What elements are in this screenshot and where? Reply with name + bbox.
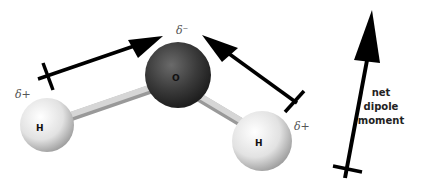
oxygen-atom: O xyxy=(145,42,211,108)
bond-left xyxy=(70,84,160,117)
net-dipole-label-line2: dipole xyxy=(364,101,399,112)
water-dipole-diagram: O H H δ⁻ δ+ δ+ net dipole moment xyxy=(0,0,425,193)
net-dipole-label-line1: net xyxy=(372,87,391,98)
hydrogen-right-atom: H xyxy=(232,111,292,171)
hydrogen-left-partial-charge: δ+ xyxy=(15,88,31,101)
hydrogen-left-atom: H xyxy=(20,98,74,152)
net-dipole-label: net dipole moment xyxy=(358,87,405,126)
net-dipole-label-line3: moment xyxy=(358,115,405,126)
hydrogen-right-label: H xyxy=(255,138,263,148)
left-bond-dipole-arrow xyxy=(38,36,163,90)
oxygen-label: O xyxy=(172,73,180,83)
hydrogen-right-partial-charge: δ+ xyxy=(294,120,310,133)
right-bond-dipole-arrow xyxy=(202,35,304,112)
hydrogen-left-label: H xyxy=(36,123,44,133)
oxygen-partial-charge: δ⁻ xyxy=(176,24,189,37)
